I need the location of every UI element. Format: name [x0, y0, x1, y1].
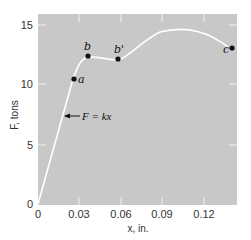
point-b-prime [115, 56, 120, 61]
point-b [85, 53, 90, 58]
y-tick-0: 0 [27, 198, 33, 210]
plot-area [38, 14, 237, 205]
point-b-prime-label: b' [114, 43, 124, 56]
y-tick-10: 10 [21, 78, 33, 90]
y-tick-5: 5 [27, 139, 33, 151]
x-tick-0.12: 0.12 [193, 208, 214, 220]
point-a-label: a [78, 73, 85, 86]
point-c-label: c [223, 43, 229, 56]
point-a [71, 76, 76, 81]
y-axis-label: F, tons [9, 100, 20, 129]
x-tick-0.06: 0.06 [110, 208, 131, 220]
annotation-f-kx: F = kx [81, 110, 112, 122]
load-deflection-chart: 15 10 5 0 0 0.03 0.06 0.09 0.12 x, in. F… [0, 0, 251, 240]
point-c [229, 45, 234, 50]
x-tick-0: 0 [35, 208, 41, 220]
y-tick-15: 15 [21, 19, 33, 31]
x-tick-0.03: 0.03 [68, 208, 89, 220]
x-axis-label: x, in. [127, 223, 148, 234]
x-tick-0.09: 0.09 [151, 208, 172, 220]
point-b-label: b [84, 40, 91, 53]
